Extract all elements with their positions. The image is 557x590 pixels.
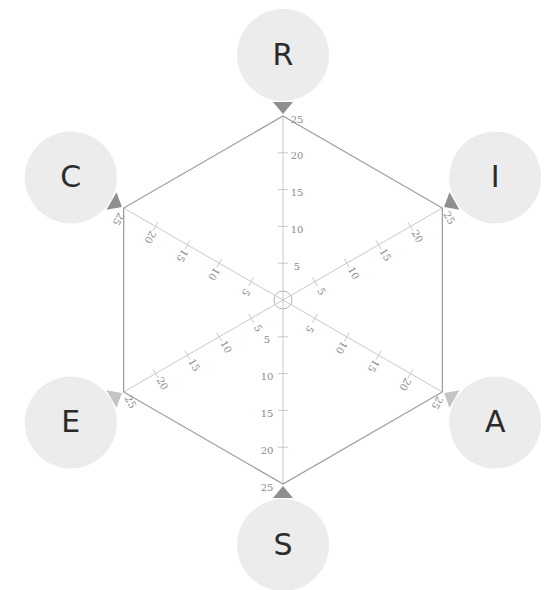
node-label: R bbox=[273, 37, 294, 72]
tick-mark bbox=[312, 314, 317, 323]
axis-line-a bbox=[283, 300, 442, 392]
node-label: I bbox=[491, 159, 500, 194]
tick-mark bbox=[185, 351, 190, 360]
tick-label-i: 10 bbox=[346, 265, 362, 282]
tick-label-s: 5 bbox=[264, 334, 270, 345]
tick-label-i: 15 bbox=[378, 246, 394, 263]
tick-label-r: 5 bbox=[294, 261, 300, 272]
tick-label-i: 5 bbox=[315, 286, 328, 297]
tick-label-r: 25 bbox=[291, 114, 304, 125]
tick-label-r: 20 bbox=[291, 150, 304, 161]
tick-mark bbox=[408, 369, 413, 378]
node-s: S bbox=[237, 486, 329, 590]
tick-label-a: 10 bbox=[334, 339, 350, 356]
tick-label-e: 25 bbox=[123, 394, 139, 411]
axis-line-e bbox=[124, 300, 283, 392]
tick-label-a: 20 bbox=[397, 376, 413, 393]
tick-label-e: 10 bbox=[218, 338, 234, 355]
node-label: A bbox=[485, 404, 506, 439]
tick-label-c: 10 bbox=[206, 266, 222, 283]
tick-mark bbox=[344, 332, 349, 341]
tick-mark bbox=[153, 369, 158, 378]
tick-mark bbox=[217, 259, 222, 268]
tick-label-s: 25 bbox=[261, 482, 274, 493]
node-r: R bbox=[237, 9, 329, 114]
tick-label-r: 10 bbox=[291, 224, 304, 235]
tick-label-s: 10 bbox=[261, 371, 274, 382]
axis-line-c bbox=[124, 208, 283, 300]
tick-label-c: 15 bbox=[174, 247, 190, 264]
tick-mark bbox=[249, 314, 254, 323]
tick-label-c: 5 bbox=[240, 287, 253, 298]
node-c: C bbox=[25, 132, 122, 224]
node-e: E bbox=[25, 377, 122, 469]
tick-label-a: 25 bbox=[429, 395, 445, 412]
tick-label-i: 20 bbox=[409, 228, 425, 245]
node-label: E bbox=[61, 404, 80, 439]
tick-label-a: 15 bbox=[366, 358, 382, 375]
node-pointer-icon bbox=[273, 102, 293, 114]
ticks-layer: 5101520255101520255101520255101520255101… bbox=[111, 114, 458, 493]
tick-label-a: 5 bbox=[303, 324, 316, 335]
node-label: S bbox=[273, 527, 292, 562]
tick-mark bbox=[376, 351, 381, 360]
riasec-hexagon-chart: 5101520255101520255101520255101520255101… bbox=[0, 0, 557, 590]
tick-label-i: 25 bbox=[441, 210, 457, 227]
axis-line-i bbox=[283, 208, 442, 300]
tick-label-r: 15 bbox=[291, 187, 304, 198]
tick-mark bbox=[344, 259, 349, 268]
tick-mark bbox=[217, 332, 222, 341]
tick-mark bbox=[408, 222, 413, 231]
tick-mark bbox=[249, 277, 254, 286]
node-a: A bbox=[444, 377, 541, 469]
tick-mark bbox=[153, 222, 158, 231]
axes-layer bbox=[124, 116, 443, 484]
node-label: C bbox=[60, 159, 81, 194]
tick-label-s: 15 bbox=[261, 408, 274, 419]
tick-label-e: 20 bbox=[154, 375, 170, 392]
tick-label-c: 20 bbox=[142, 229, 158, 246]
node-i: I bbox=[444, 132, 541, 224]
tick-label-e: 5 bbox=[252, 323, 265, 334]
tick-label-s: 20 bbox=[261, 445, 274, 456]
tick-mark bbox=[312, 277, 317, 286]
tick-label-e: 15 bbox=[186, 357, 202, 374]
node-pointer-icon bbox=[273, 486, 293, 498]
tick-mark bbox=[376, 240, 381, 249]
tick-mark bbox=[185, 240, 190, 249]
